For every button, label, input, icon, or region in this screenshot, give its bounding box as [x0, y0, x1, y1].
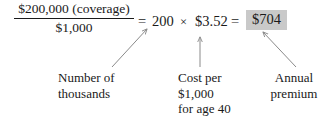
- fraction-bar: [14, 18, 134, 19]
- caption-line: Annual: [268, 70, 320, 86]
- factor-value: 200: [152, 13, 174, 30]
- caption-cost-per-thousand: Cost per $1,000 for age 40: [178, 70, 231, 117]
- fraction-denominator: $1,000: [14, 20, 134, 35]
- caption-annual-premium: Annual premium: [268, 70, 320, 101]
- caption-line: thousands: [58, 86, 115, 102]
- caption-number-of-thousands: Number of thousands: [58, 70, 115, 101]
- equation-row: $200,000 (coverage) $1,000 = 200 × $3.52…: [0, 0, 332, 46]
- caption-line: premium: [268, 86, 320, 102]
- equals-sign-first: =: [138, 13, 146, 30]
- equals-sign-second: =: [231, 13, 239, 30]
- multiplication-sign: ×: [180, 15, 187, 30]
- caption-line: $1,000: [178, 86, 231, 102]
- caption-line: for age 40: [178, 101, 231, 117]
- result-highlight: $704: [246, 10, 287, 30]
- fraction-numerator: $200,000 (coverage): [14, 2, 134, 17]
- coverage-fraction: $200,000 (coverage) $1,000: [14, 2, 134, 35]
- caption-line: Number of: [58, 70, 115, 86]
- rate-value: $3.52: [195, 13, 228, 30]
- caption-line: Cost per: [178, 70, 231, 86]
- insurance-premium-figure: $200,000 (coverage) $1,000 = 200 × $3.52…: [0, 0, 332, 121]
